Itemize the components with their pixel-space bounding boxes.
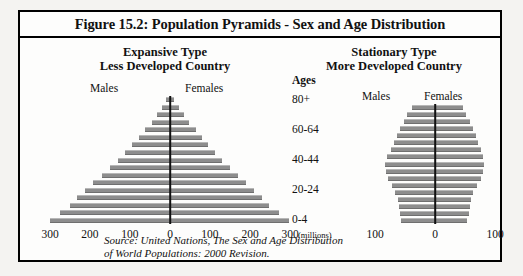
age-group-label: 40-44 — [292, 153, 319, 165]
ages-axis-header: Ages — [292, 74, 316, 86]
bar-male — [400, 211, 435, 216]
right-center-axis — [434, 104, 436, 224]
source-line-2: of World Populations: 2000 Revision. — [104, 247, 434, 260]
right-panel-heading-line1: Stationary Type — [288, 46, 500, 60]
bar-male — [395, 190, 435, 195]
bar-female — [435, 183, 477, 188]
page-title: Figure 15.2: Population Pyramids - Sex a… — [75, 16, 445, 33]
bar-female — [170, 158, 222, 163]
bar-male — [145, 127, 170, 132]
left-males-label: Males — [90, 82, 118, 94]
bar-male — [110, 165, 170, 170]
left-center-axis — [169, 96, 171, 224]
bar-male — [157, 112, 170, 117]
bar-female — [170, 105, 179, 110]
bar-female — [170, 180, 246, 185]
bar-male — [398, 197, 435, 202]
bar-female — [170, 112, 184, 117]
bar-male — [125, 150, 170, 155]
bar-male — [394, 140, 435, 145]
bar-female — [170, 165, 230, 170]
bar-male — [412, 105, 435, 110]
source-citation: Source: United Nations, The Sex and Age … — [104, 234, 434, 260]
bar-female — [435, 133, 476, 138]
bar-female — [435, 162, 484, 167]
right-panel-heading-line2: More Developed Country — [288, 60, 500, 74]
bar-male — [139, 135, 170, 140]
bar-male — [60, 210, 170, 215]
bar-female — [170, 150, 215, 155]
left-population-pyramid — [50, 96, 290, 224]
right-population-pyramid — [375, 104, 495, 224]
right-panel-heading: Stationary Type More Developed Country — [288, 46, 500, 73]
figure-body: Expansive Type Less Developed Country St… — [20, 38, 500, 262]
bar-female — [170, 142, 208, 147]
left-panel-heading: Expansive Type Less Developed Country — [40, 46, 290, 73]
left-females-label: Females — [185, 82, 223, 94]
bar-male — [152, 120, 170, 125]
bar-female — [435, 218, 467, 223]
bar-female — [170, 195, 262, 200]
bar-male — [118, 158, 170, 163]
bar-female — [435, 126, 473, 131]
bar-female — [170, 218, 289, 223]
bar-female — [435, 154, 483, 159]
bar-male — [397, 133, 435, 138]
bar-male — [399, 204, 435, 209]
x-tick-label: 200 — [81, 228, 98, 240]
bar-male — [385, 162, 435, 167]
source-line-1: Source: United Nations, The Sex and Age … — [104, 234, 434, 247]
bar-male — [50, 218, 170, 223]
bar-male — [404, 119, 435, 124]
x-tick-label: 300 — [41, 228, 58, 240]
bar-female — [435, 119, 470, 124]
bar-male — [132, 142, 170, 147]
bar-female — [170, 127, 196, 132]
bar-male — [392, 183, 435, 188]
bar-female — [435, 176, 481, 181]
bar-female — [435, 147, 481, 152]
bar-male — [400, 126, 435, 131]
bar-female — [170, 135, 202, 140]
bar-male — [388, 176, 435, 181]
right-females-label: Females — [424, 90, 462, 102]
age-group-label: 20-24 — [292, 183, 319, 195]
bar-male — [391, 147, 435, 152]
bar-male — [93, 180, 170, 185]
bar-male — [401, 218, 435, 223]
x-tick-label: 100 — [486, 228, 503, 240]
bar-female — [170, 210, 279, 215]
age-group-label: 80+ — [292, 93, 310, 105]
right-males-label: Males — [362, 90, 390, 102]
bar-female — [170, 203, 269, 208]
age-group-label: 60-64 — [292, 123, 319, 135]
bar-female — [435, 112, 466, 117]
bar-female — [435, 211, 469, 216]
bar-female — [435, 105, 463, 110]
bar-male — [387, 154, 435, 159]
bar-female — [170, 188, 254, 193]
bar-male — [77, 195, 170, 200]
figure-title-band: Figure 15.2: Population Pyramids - Sex a… — [20, 12, 500, 38]
left-panel-heading-line1: Expansive Type — [40, 46, 290, 60]
bar-female — [170, 173, 238, 178]
bar-female — [435, 140, 478, 145]
bar-male — [407, 112, 435, 117]
bar-male — [386, 169, 435, 174]
bar-male — [70, 203, 170, 208]
left-panel-heading-line2: Less Developed Country — [40, 60, 290, 74]
figure-frame: Figure 15.2: Population Pyramids - Sex a… — [18, 10, 502, 262]
bar-male — [102, 173, 170, 178]
bar-male — [85, 188, 170, 193]
bar-female — [435, 204, 470, 209]
bar-female — [435, 197, 471, 202]
bar-female — [435, 169, 483, 174]
bar-female — [170, 120, 189, 125]
bar-female — [435, 190, 473, 195]
age-group-label: 0-4 — [292, 213, 307, 225]
